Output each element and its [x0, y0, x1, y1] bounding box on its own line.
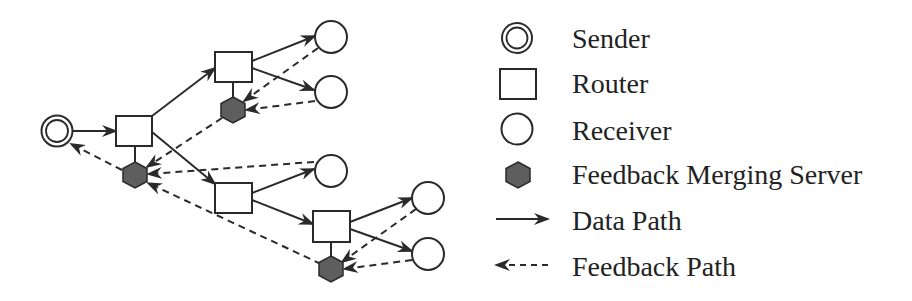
legend-label-receiver: Receiver: [572, 115, 672, 146]
fms-node-2: [221, 97, 245, 123]
receiver-node-3: [315, 155, 347, 187]
legend-item-router: Router: [500, 68, 649, 99]
router-node-1: [116, 116, 152, 146]
router-icon: [500, 69, 536, 99]
legend-item-receiver: Receiver: [502, 114, 673, 147]
sender-node: [42, 116, 73, 147]
feedback-path-receiver4-fms4: [342, 209, 416, 262]
data-path-router3-router4: [252, 200, 313, 224]
legend-item-feedback-path: Feedback Path: [496, 251, 736, 282]
legend-item-fms: Feedback Merging Server: [506, 159, 863, 190]
legend-label-sender: Sender: [572, 23, 650, 54]
receiver-node-4: [412, 182, 444, 214]
data-path-router4-receiver5: [350, 229, 412, 251]
legend-item-sender: Sender: [502, 23, 650, 54]
legend-label-feedback-path: Feedback Path: [572, 251, 736, 282]
receiver-icon: [502, 114, 533, 145]
feedback-path-receiver3-fms1: [148, 162, 314, 174]
router-node-3: [215, 183, 252, 213]
data-path-router3-receiver3: [252, 169, 314, 193]
legend-label-fms: Feedback Merging Server: [572, 159, 863, 190]
receiver-node-1: [315, 21, 347, 53]
feedback-path-receiver5-fms4: [344, 260, 412, 269]
sender-icon: [502, 23, 532, 53]
feedback-merging-server-icon: [506, 162, 530, 188]
data-path-router1-router2: [152, 68, 215, 116]
fms-node-4: [319, 256, 343, 282]
legend: Sender Router Receiver Feedback Merging …: [496, 23, 863, 282]
router-node-2: [215, 52, 252, 82]
network-topology: [42, 21, 445, 282]
router-node-4: [313, 211, 350, 242]
feedback-path-receiver1-fms2: [244, 48, 318, 101]
receiver-node-2: [315, 76, 347, 108]
legend-label-data-path: Data Path: [572, 205, 682, 236]
legend-item-data-path: Data Path: [496, 205, 682, 236]
receiver-node-5: [412, 238, 444, 270]
fms-node-1: [123, 162, 147, 188]
legend-label-router: Router: [572, 68, 649, 99]
multicast-feedback-diagram: Sender Router Receiver Feedback Merging …: [0, 0, 912, 301]
data-path-router2-receiver2: [252, 68, 314, 90]
feedback-path-receiver2-fms2: [246, 101, 315, 110]
feedback-path-fms1-sender: [71, 144, 122, 170]
